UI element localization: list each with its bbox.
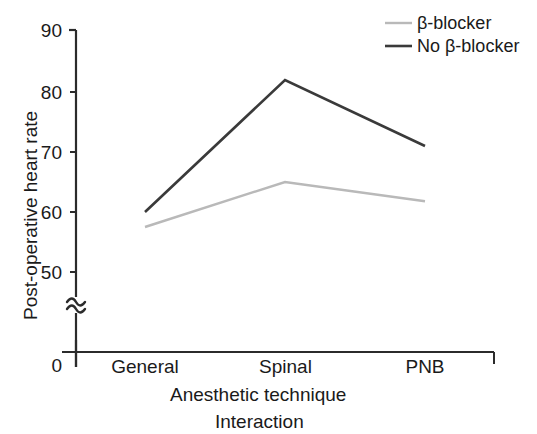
x-tick-label-pnb: PNB: [385, 357, 465, 376]
x-tick-label-spinal: Spinal: [238, 357, 333, 376]
y-tick-label-90: 90: [30, 21, 62, 40]
legend-label-no-beta-blocker: No β-blocker: [417, 37, 519, 55]
figure-caption: Interaction: [215, 412, 304, 431]
axis-break-icon: [67, 299, 85, 313]
y-axis-origin-label: 0: [30, 356, 62, 375]
interaction-line-chart: β-blocker No β-blocker 90 80 70 60 50 0 …: [0, 0, 537, 434]
series-line-beta-blocker: [145, 182, 425, 227]
y-axis: [69, 30, 76, 367]
x-axis-title: Anesthetic technique: [170, 385, 346, 404]
y-axis-title: Post-operative heart rate: [20, 111, 42, 320]
y-tick-label-80: 80: [30, 83, 62, 102]
series-line-no-beta-blocker: [145, 80, 425, 212]
legend-label-beta-blocker: β-blocker: [417, 14, 491, 32]
x-tick-label-general: General: [95, 357, 195, 376]
